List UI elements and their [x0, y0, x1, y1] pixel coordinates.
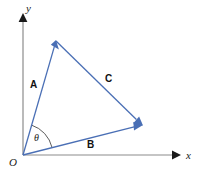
vector-a-label: A	[30, 79, 37, 90]
vector-diagram-canvas: y x O θ A B C	[0, 0, 201, 170]
x-axis-arrowhead	[172, 151, 181, 160]
vector-triangle-figure: y x O θ A B C	[0, 0, 201, 170]
vector-c-label: C	[105, 73, 112, 84]
y-axis-arrowhead	[19, 13, 28, 22]
x-axis-label: x	[185, 149, 191, 161]
vector-b-shaft	[23, 127, 135, 155]
vector-a-arrowhead	[51, 40, 59, 50]
angle-theta-label: θ	[34, 132, 39, 143]
y-axis-label: y	[25, 2, 31, 14]
origin-label: O	[9, 156, 17, 168]
vector-c-shaft	[56, 41, 136, 120]
vector-b-label: B	[87, 139, 94, 150]
